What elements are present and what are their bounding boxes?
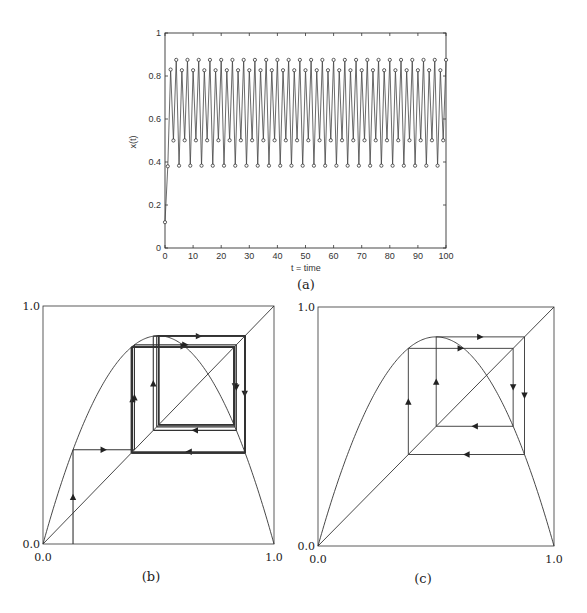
x-max-label-b: 1.0: [265, 551, 283, 564]
y-tick-label: 0.4: [148, 157, 161, 167]
x-tick-label: 60: [329, 251, 339, 261]
x-min-label-c: 0.0: [309, 553, 327, 566]
x-tick-label: 80: [385, 251, 395, 261]
x-tick-label: 100: [438, 251, 453, 261]
x-tick-label: 70: [357, 251, 367, 261]
x-tick-label: 0: [162, 251, 167, 261]
x-tick-label: 50: [300, 251, 310, 261]
cobweb-plot-c: 1.0 0.0 0.0 1.0 (c): [298, 301, 563, 586]
y-max-label-c: 1.0: [298, 301, 316, 314]
cobweb-b-content: [43, 306, 274, 544]
figure-canvas: 010203040506070809010000.20.40.60.81 x(t…: [0, 0, 587, 613]
caption-b: (b): [142, 569, 160, 584]
x-tick-label: 10: [188, 251, 198, 261]
y-tick-label: 0.8: [148, 71, 161, 81]
y-min-label-c: 0.0: [298, 540, 316, 553]
y-tick-label: 1: [156, 28, 161, 38]
x-tick-label: 90: [413, 251, 423, 261]
cobweb-c-content: [318, 307, 554, 546]
x-min-label-b: 0.0: [34, 551, 52, 564]
x-axis-label: t = time: [291, 263, 321, 273]
x-tick-label: 40: [272, 251, 282, 261]
x-max-label-c: 1.0: [545, 553, 563, 566]
cobweb-plot-b: 1.0 0.0 0.0 1.0 (b): [23, 300, 283, 584]
y-min-label-b: 0.0: [23, 538, 41, 551]
plot-a-ticks: 010203040506070809010000.20.40.60.81: [148, 28, 453, 261]
caption-a: (a): [297, 277, 315, 292]
y-tick-label: 0.6: [148, 114, 161, 124]
x-tick-label: 20: [216, 251, 226, 261]
caption-c: (c): [414, 571, 431, 586]
y-tick-label: 0: [156, 243, 161, 253]
x-tick-label: 30: [244, 251, 254, 261]
y-max-label-b: 1.0: [23, 300, 41, 313]
y-tick-label: 0.2: [148, 200, 161, 210]
timeseries-plot: 010203040506070809010000.20.40.60.81 x(t…: [128, 28, 454, 292]
y-axis-label: x(t): [128, 136, 138, 149]
